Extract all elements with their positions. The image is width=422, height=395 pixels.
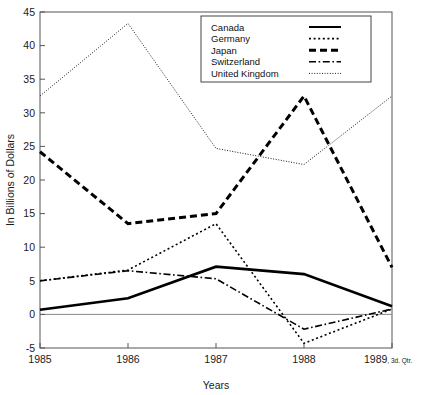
y-tick-label: 30 <box>23 107 35 119</box>
y-tick-label: 25 <box>23 140 35 152</box>
y-axis-title: In Billions of Dollars <box>4 134 16 226</box>
chart-canvas: -5051015202530354045 1985198619871988198… <box>0 0 422 395</box>
x-tick-label: 1988 <box>292 353 316 365</box>
x-tick-suffix: , 3d. Qtr. <box>387 357 412 365</box>
legend-label-united-kingdom: United Kingdom <box>211 68 279 79</box>
y-tick-label: 10 <box>23 241 35 253</box>
y-tick-label: 35 <box>23 73 35 85</box>
y-tick-label: -5 <box>26 342 35 354</box>
y-tick-label: 15 <box>23 207 35 219</box>
x-tick-label: 1985 <box>28 353 52 365</box>
y-tick-label: 20 <box>23 174 35 186</box>
line-chart-figure: -5051015202530354045 1985198619871988198… <box>0 0 422 395</box>
chart-legend: CanadaGermanyJapanSwitzerlandUnited King… <box>201 16 371 82</box>
x-axis-title: Years <box>203 379 229 391</box>
y-tick-label: 45 <box>23 6 35 18</box>
y-tick-label: 5 <box>29 275 35 287</box>
legend-label-canada: Canada <box>211 22 245 33</box>
legend-label-germany: Germany <box>211 33 250 44</box>
legend-label-switzerland: Switzerland <box>211 56 260 67</box>
x-tick-label: 1986 <box>116 353 140 365</box>
x-tick-label: 1987 <box>204 353 228 365</box>
legend-label-japan: Japan <box>211 45 237 56</box>
y-tick-label: 0 <box>29 308 35 320</box>
y-tick-label: 40 <box>23 39 35 51</box>
